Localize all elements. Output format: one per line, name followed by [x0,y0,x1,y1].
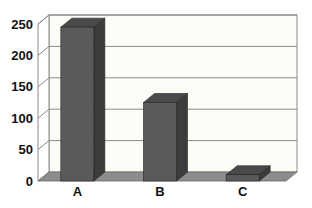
y-tick-label: 200 [11,48,33,63]
x-category-label: C [238,184,248,199]
y-tick-label: 100 [11,111,33,126]
y-tick-label: 150 [11,79,33,94]
side-wall [38,15,49,181]
bar-B [144,94,188,182]
bar-chart: 050100150200250 ABC [0,0,312,208]
y-tick-label: 50 [19,142,33,157]
y-tick-label: 0 [26,174,33,189]
bar-A [61,18,105,181]
x-category-label: A [73,184,83,199]
y-tick-label: 250 [11,17,33,32]
x-category-label: B [155,184,164,199]
x-axis-categories: ABC [73,184,248,199]
y-axis-ticks: 050100150200250 [11,17,33,189]
